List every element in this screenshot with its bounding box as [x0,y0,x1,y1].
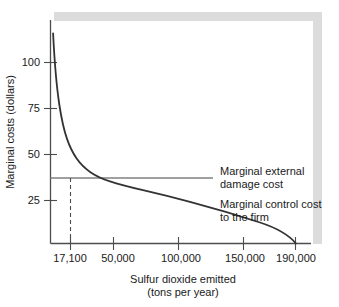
x-tick-label-190000: 190,000 [276,252,316,264]
x-tick-label-100000: 100,000 [161,252,201,264]
y-tick-label-75: 75 [28,102,40,114]
y-tick-label-100: 100 [22,56,40,68]
marginal-external-damage-cost-label-line1: Marginal external [220,165,304,177]
marginal-control-cost-label-line1: Marginal control cost [220,198,322,210]
x-axis-title-line1: Sulfur dioxide emitted [130,273,236,285]
figure-container: 100 75 50 25 17,100 50,000 100,000 150,0… [0,0,339,307]
marginal-cost-chart: 100 75 50 25 17,100 50,000 100,000 150,0… [0,0,339,307]
marginal-external-damage-cost-label-line2: damage cost [220,178,283,190]
x-tick-label-50000: 50,000 [101,252,135,264]
y-axis-title: Marginal costs (dollars) [4,75,16,189]
figure-shadow-top [54,12,322,21]
x-axis-title-line2: (tons per year) [147,286,219,298]
y-tick-label-25: 25 [28,194,40,206]
y-tick-label-50: 50 [28,148,40,160]
x-tick-label-17100: 17,100 [53,252,87,264]
x-tick-label-150000: 150,000 [225,252,265,264]
marginal-control-cost-label-line2: to the firm [220,211,269,223]
